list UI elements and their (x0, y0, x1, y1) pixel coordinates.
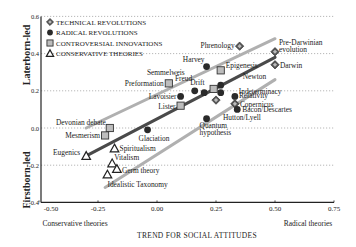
triangle-marker-icon (110, 144, 119, 152)
data-point: Lavoisier (149, 92, 184, 101)
data-point: Preformation (125, 79, 173, 88)
square-marker-icon (177, 102, 184, 109)
y-axis-bottom-label: Firstborn-led (21, 151, 32, 209)
data-point: Spiritualism (110, 144, 156, 153)
point-label: Newton (243, 72, 267, 81)
point-label: Spiritualism (120, 144, 156, 153)
point-label: Devonian debate (56, 118, 107, 127)
x-tick-label: -0.25 (91, 205, 106, 213)
legend-label: TECHNICAL REVOLUTIONS (56, 19, 146, 27)
legend: TECHNICAL REVOLUTIONSRADICAL REVOLUTIONS… (46, 18, 162, 58)
point-label: hypothesis (200, 128, 232, 137)
circle-marker-icon (191, 87, 198, 94)
point-label: Mesmerism (65, 131, 100, 140)
circle-marker-icon (201, 89, 208, 96)
circle-marker-icon (47, 30, 53, 36)
point-label: Vitalism (114, 153, 139, 162)
circle-marker-icon (234, 106, 241, 113)
y-axis-top-label: Laterborn-led (21, 24, 32, 85)
legend-label: CONTROVERSIAL INNOVATIONS (56, 40, 162, 48)
data-point: Harvey (183, 55, 210, 70)
point-label: Drift (190, 78, 205, 87)
triangle-marker-icon (46, 50, 53, 57)
legend-label: CONSERVATIVE THEORIES (56, 50, 143, 58)
data-point: Relativity (231, 91, 268, 100)
circle-marker-icon (217, 82, 224, 89)
y-tick-label: 0.0 (31, 125, 39, 132)
point-label: Darwin (280, 61, 302, 70)
data-point: Phrenology (201, 41, 244, 50)
circle-marker-icon (144, 126, 151, 133)
y-tick-label: 0.6 (31, 13, 40, 20)
square-marker-icon (106, 124, 113, 131)
legend-label: RADICAL REVOLUTIONS (56, 29, 138, 37)
circle-marker-icon (177, 93, 184, 100)
x-tick-label: -0.50 (44, 205, 59, 213)
x-tick-label: 0.00 (151, 205, 164, 213)
x-axis-title: TREND FOR SOCIAL ATTITUDES (137, 231, 257, 240)
point-label: Bacon/Descartes (242, 105, 292, 114)
data-point: Eugenics (53, 148, 90, 159)
point-label: Preformation (125, 79, 164, 88)
x-axis-left-label: Conservative theories (42, 219, 107, 228)
y-tick-label: 0.2 (31, 87, 39, 94)
square-marker-icon (47, 40, 53, 46)
data-point: Germ theory (113, 165, 160, 175)
x-axis-right-label: Radical theories (284, 219, 333, 228)
circle-marker-icon (217, 89, 224, 96)
square-marker-icon (165, 80, 172, 87)
data-point: Vitalism (108, 153, 140, 166)
data-point: Darwin (271, 61, 303, 70)
square-marker-icon (217, 67, 224, 74)
point-label: Glaciation (139, 134, 170, 143)
data-point: Devonian debate (56, 118, 113, 132)
data-point: Bacon/Descartes (234, 105, 292, 114)
circle-marker-icon (203, 63, 210, 70)
x-tick-label: 0.25 (210, 205, 223, 213)
data-point: Lister (158, 102, 184, 111)
point-label: Eugenics (53, 148, 80, 157)
scatter-chart: 0.60.40.20.0-0.2-0.4-0.50-0.250.000.250.… (0, 0, 356, 247)
point-label: Epigenesis (226, 61, 258, 70)
square-marker-icon (101, 132, 108, 139)
y-tick-label: 0.4 (31, 50, 40, 57)
point-label: Relativity (239, 91, 268, 100)
point-label: Phrenology (201, 41, 235, 50)
point-label: Lavoisier (149, 92, 177, 101)
point-label: Hutton/Lyell (223, 113, 261, 122)
x-tick-label: 0.50 (269, 205, 282, 213)
point-label: Harvey (183, 55, 205, 64)
data-points: PhrenologyPre-DarwinianevolutionDarwinCo… (53, 38, 323, 189)
data-point: Pre-Darwinianevolution (271, 38, 323, 56)
circle-marker-icon (231, 93, 238, 100)
triangle-marker-icon (103, 170, 112, 178)
x-tick-label: 0.75 (328, 205, 341, 213)
data-point: Glaciation (139, 126, 170, 142)
point-label: Germ theory (122, 166, 160, 175)
point-label: evolution (279, 45, 307, 54)
point-label: Lister (158, 102, 176, 111)
square-marker-icon (210, 85, 217, 92)
point-label: Idealistic Taxonomy (107, 180, 168, 189)
data-point: Mesmerism (65, 131, 109, 140)
